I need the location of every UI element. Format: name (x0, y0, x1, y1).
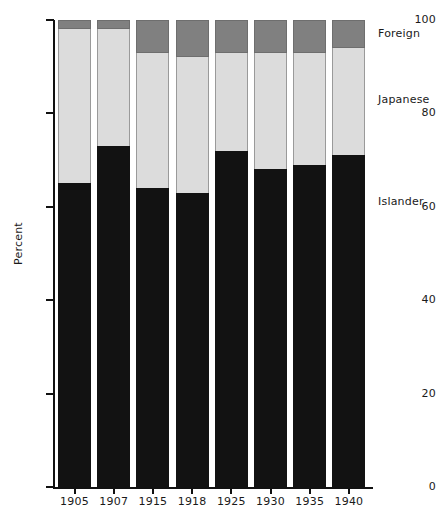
x-axis-tick (74, 487, 76, 494)
bar-segment-foreign[interactable] (136, 20, 169, 53)
x-axis-tick (270, 487, 272, 494)
bar-segment-foreign[interactable] (58, 20, 91, 29)
bar-stack[interactable] (215, 20, 248, 487)
bar-segment-foreign[interactable] (254, 20, 287, 53)
bar-segment-islander[interactable] (254, 169, 287, 487)
bar-stack[interactable] (293, 20, 326, 487)
x-axis-tick (230, 487, 232, 494)
bar-segment-foreign[interactable] (332, 20, 365, 48)
bar-segment-japanese[interactable] (215, 53, 248, 151)
x-axis-tick (113, 487, 115, 494)
legend-label-islander: Islander (378, 196, 424, 208)
x-axis-tick (309, 487, 311, 494)
bar-segment-islander[interactable] (58, 183, 91, 487)
bar-segment-foreign[interactable] (97, 20, 130, 29)
x-axis-line (53, 487, 373, 489)
bar-segment-islander[interactable] (136, 188, 169, 487)
bar-stack[interactable] (176, 20, 209, 487)
bar-segment-islander[interactable] (215, 151, 248, 487)
bar-stack[interactable] (332, 20, 365, 487)
bar-segment-japanese[interactable] (136, 53, 169, 188)
legend-label-japanese: Japanese (378, 94, 430, 106)
bar-segment-foreign[interactable] (215, 20, 248, 53)
x-axis-tick (152, 487, 154, 494)
bar-segment-islander[interactable] (176, 193, 209, 487)
bar-segment-japanese[interactable] (293, 53, 326, 165)
bar-segment-japanese[interactable] (254, 53, 287, 170)
bar-segment-japanese[interactable] (97, 29, 130, 146)
bar-segment-foreign[interactable] (176, 20, 209, 57)
stacked-bar-chart: 020406080100 Percent 1905190719151918192… (0, 0, 436, 517)
bar-segment-japanese[interactable] (58, 29, 91, 183)
x-axis-tick-label: 1940 (326, 496, 372, 508)
bar-segment-japanese[interactable] (176, 57, 209, 192)
bar-stack[interactable] (58, 20, 91, 487)
x-axis-tick (348, 487, 350, 494)
bar-stack[interactable] (254, 20, 287, 487)
bar-segment-foreign[interactable] (293, 20, 326, 53)
bar-segment-islander[interactable] (293, 165, 326, 487)
bar-segment-japanese[interactable] (332, 48, 365, 155)
bar-segment-islander[interactable] (97, 146, 130, 487)
legend-label-foreign: Foreign (378, 28, 420, 40)
bar-stack[interactable] (97, 20, 130, 487)
bar-stack[interactable] (136, 20, 169, 487)
plot-area (0, 0, 436, 517)
bar-segment-islander[interactable] (332, 155, 365, 487)
x-axis-tick (191, 487, 193, 494)
